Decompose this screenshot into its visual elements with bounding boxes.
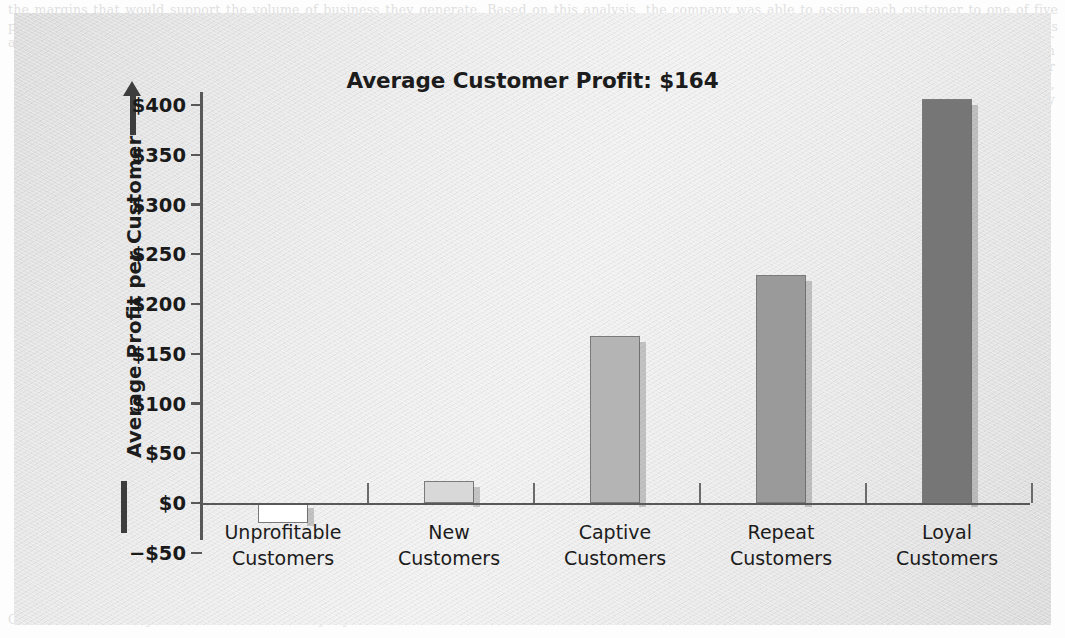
y-tick-label: $150	[112, 342, 186, 365]
x-category-label: UnprofitableCustomers	[200, 519, 366, 571]
x-axis-line	[200, 503, 1030, 505]
figure-page: the margins that would support the volum…	[0, 0, 1065, 638]
x-tick	[533, 483, 535, 503]
y-tick-label: $250	[112, 243, 186, 266]
bar	[590, 336, 640, 503]
y-tick	[191, 452, 202, 454]
y-tick	[191, 402, 202, 404]
x-category-label: RepeatCustomers	[698, 519, 864, 571]
y-tick-label: −$50	[112, 541, 186, 564]
x-tick	[1031, 483, 1033, 503]
chart-panel: Average Customer Profit: $164 Average Pr…	[14, 13, 1051, 625]
bar	[756, 275, 806, 503]
y-axis-line	[200, 92, 203, 540]
y-tick	[191, 203, 202, 205]
bar	[424, 481, 474, 503]
y-tick-label: $100	[112, 392, 186, 415]
chart-title: Average Customer Profit: $164	[14, 68, 1051, 93]
y-tick	[191, 253, 202, 255]
bar	[922, 99, 972, 503]
x-tick	[865, 483, 867, 503]
x-tick	[699, 483, 701, 503]
x-category-label: LoyalCustomers	[864, 519, 1030, 571]
y-tick-label: $200	[112, 293, 186, 316]
y-tick	[191, 303, 202, 305]
y-tick-label: $400	[112, 94, 186, 117]
y-tick-label: $50	[112, 442, 186, 465]
x-category-label: CaptiveCustomers	[532, 519, 698, 571]
y-tick-label: $350	[112, 143, 186, 166]
y-tick-label: $300	[112, 193, 186, 216]
y-tick-label: $0	[112, 492, 186, 515]
y-tick	[191, 154, 202, 156]
plot-area: Average Customer Profit: $164 Average Pr…	[14, 13, 1051, 625]
y-tick	[191, 353, 202, 355]
x-tick	[367, 483, 369, 503]
y-tick	[191, 104, 202, 106]
x-category-label: NewCustomers	[366, 519, 532, 571]
y-tick	[191, 502, 202, 504]
